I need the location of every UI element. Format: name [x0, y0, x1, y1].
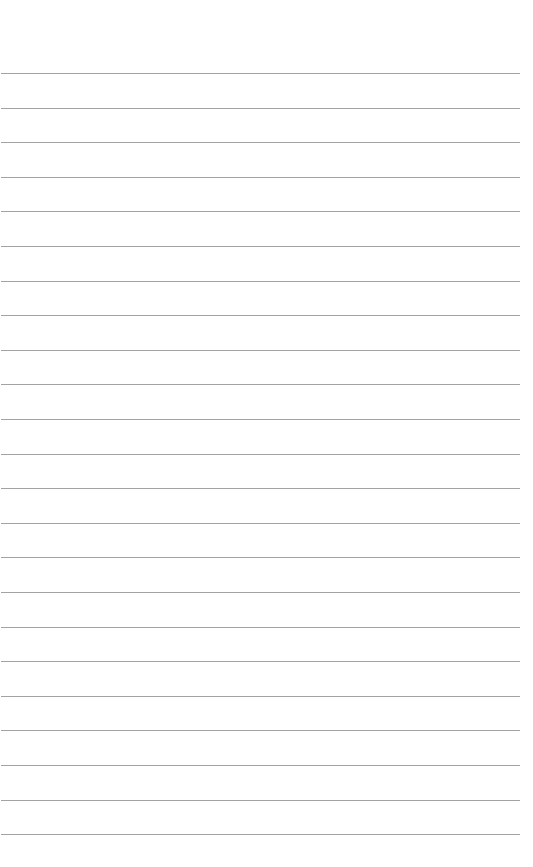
ruled-line	[1, 627, 520, 628]
ruled-line	[1, 730, 520, 731]
ruled-line	[1, 73, 520, 74]
ruled-line	[1, 488, 520, 489]
ruled-line	[1, 800, 520, 801]
ruled-line	[1, 177, 520, 178]
lined-paper-page	[0, 0, 533, 867]
ruled-line	[1, 419, 520, 420]
ruled-line	[1, 523, 520, 524]
ruled-line	[1, 661, 520, 662]
ruled-line	[1, 108, 520, 109]
ruled-line	[1, 454, 520, 455]
ruled-line	[1, 315, 520, 316]
ruled-line	[1, 211, 520, 212]
ruled-line	[1, 384, 520, 385]
ruled-line	[1, 592, 520, 593]
ruled-line	[1, 765, 520, 766]
ruled-line	[1, 246, 520, 247]
ruled-line	[1, 142, 520, 143]
ruled-line	[1, 834, 520, 835]
ruled-line	[1, 696, 520, 697]
ruled-line	[1, 557, 520, 558]
ruled-line	[1, 281, 520, 282]
ruled-line	[1, 350, 520, 351]
